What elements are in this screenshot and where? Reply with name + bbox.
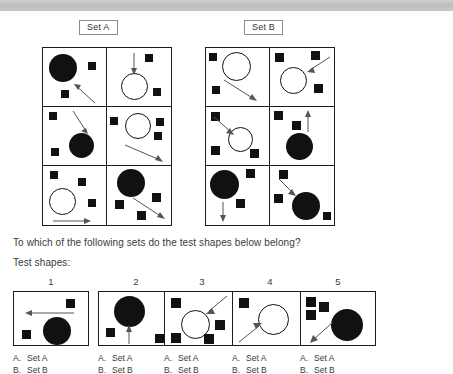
test-shapes-label: Test shapes: xyxy=(13,257,70,268)
answer-letter: B. xyxy=(13,364,27,374)
answer-letter: A. xyxy=(232,352,246,364)
set-b-cell-2 xyxy=(270,48,334,107)
arrow-up-right xyxy=(233,292,308,346)
answer-option-a[interactable]: A. Set A xyxy=(232,352,308,364)
arrow-down-right xyxy=(270,166,334,225)
arrow-down xyxy=(206,166,270,225)
top-scan-band xyxy=(0,0,453,11)
answer-text: Set B xyxy=(314,364,335,374)
answer-text: Set B xyxy=(246,364,267,374)
answer-text: Set A xyxy=(246,352,266,364)
test-shape-answers-5: A. Set A B. Set B xyxy=(300,352,376,374)
arrow-left xyxy=(14,292,89,346)
test-shape-number-4: 4 xyxy=(232,276,308,287)
answer-option-b[interactable]: B. Set B xyxy=(98,364,174,374)
answer-option-b[interactable]: B. Set B xyxy=(300,364,376,374)
set-a-cell-6 xyxy=(107,166,171,225)
answer-option-b[interactable]: B. Set B xyxy=(232,364,308,374)
arrow-up xyxy=(99,292,174,346)
answer-option-a[interactable]: A. Set A xyxy=(13,352,89,364)
set-a-grid xyxy=(42,47,172,226)
arrow-down-left xyxy=(270,48,334,107)
arrow-down-right xyxy=(206,48,270,107)
arrow-down-left xyxy=(301,292,376,346)
test-shape-answers-2: A. Set A B. Set B xyxy=(98,352,174,374)
answer-letter: A. xyxy=(98,352,112,364)
answer-letter: B. xyxy=(98,364,112,374)
test-shape-number-1: 1 xyxy=(13,276,89,287)
test-shape-panel-4 xyxy=(232,291,308,346)
test-shape-number-5: 5 xyxy=(300,276,376,287)
arrow-up xyxy=(270,107,334,166)
answer-text: Set A xyxy=(27,352,47,364)
set-a-label: Set A xyxy=(79,20,118,35)
set-a-cell-1 xyxy=(43,48,107,107)
test-shape-panel-2 xyxy=(98,291,174,346)
worksheet-page: Set A Set B xyxy=(0,11,453,374)
answer-option-b[interactable]: B. Set B xyxy=(13,364,89,374)
test-shape-number-3: 3 xyxy=(164,276,240,287)
test-shape-answers-4: A. Set A B. Set B xyxy=(232,352,308,374)
arrow-down-right xyxy=(107,107,171,166)
answer-text: Set B xyxy=(27,364,48,374)
answer-letter: A. xyxy=(13,352,27,364)
arrow-right xyxy=(43,166,107,225)
test-shape-panel-5 xyxy=(300,291,376,346)
set-b-grid xyxy=(205,47,335,226)
answer-letter: A. xyxy=(300,352,314,364)
answer-text: Set B xyxy=(178,364,199,374)
answer-letter: A. xyxy=(164,352,178,364)
test-shape-answers-1: A. Set A B. Set B xyxy=(13,352,89,374)
arrow-down-left xyxy=(165,292,240,346)
test-shape-number-2: 2 xyxy=(98,276,174,287)
set-b-cell-1 xyxy=(206,48,270,107)
set-b-label: Set B xyxy=(244,20,283,35)
set-b-cell-6 xyxy=(270,166,334,225)
answer-text: Set A xyxy=(178,352,198,364)
arrow-up-left xyxy=(43,48,107,107)
answer-option-a[interactable]: A. Set A xyxy=(164,352,240,364)
answer-text: Set A xyxy=(314,352,334,364)
test-shape-panel-1 xyxy=(13,291,89,346)
answer-text: Set B xyxy=(112,364,133,374)
answer-option-b[interactable]: B. Set B xyxy=(164,364,240,374)
answer-letter: B. xyxy=(300,364,314,374)
answer-letter: B. xyxy=(232,364,246,374)
arrow-down-right xyxy=(43,107,107,166)
set-b-cell-5 xyxy=(206,166,270,225)
answer-text: Set A xyxy=(112,352,132,364)
arrow-down-right xyxy=(107,166,171,225)
set-a-cell-2 xyxy=(107,48,171,107)
set-b-cell-4 xyxy=(270,107,334,166)
test-shape-answers-3: A. Set A B. Set B xyxy=(164,352,240,374)
set-b-cell-3 xyxy=(206,107,270,166)
question-text: To which of the following sets do the te… xyxy=(13,237,301,248)
answer-option-a[interactable]: A. Set A xyxy=(98,352,174,364)
arrow-down-right xyxy=(206,107,270,166)
set-a-cell-3 xyxy=(43,107,107,166)
answer-letter: B. xyxy=(164,364,178,374)
answer-option-a[interactable]: A. Set A xyxy=(300,352,376,364)
arrow-down xyxy=(107,48,171,107)
test-shape-panel-3 xyxy=(164,291,240,346)
set-a-cell-5 xyxy=(43,166,107,225)
set-a-cell-4 xyxy=(107,107,171,166)
